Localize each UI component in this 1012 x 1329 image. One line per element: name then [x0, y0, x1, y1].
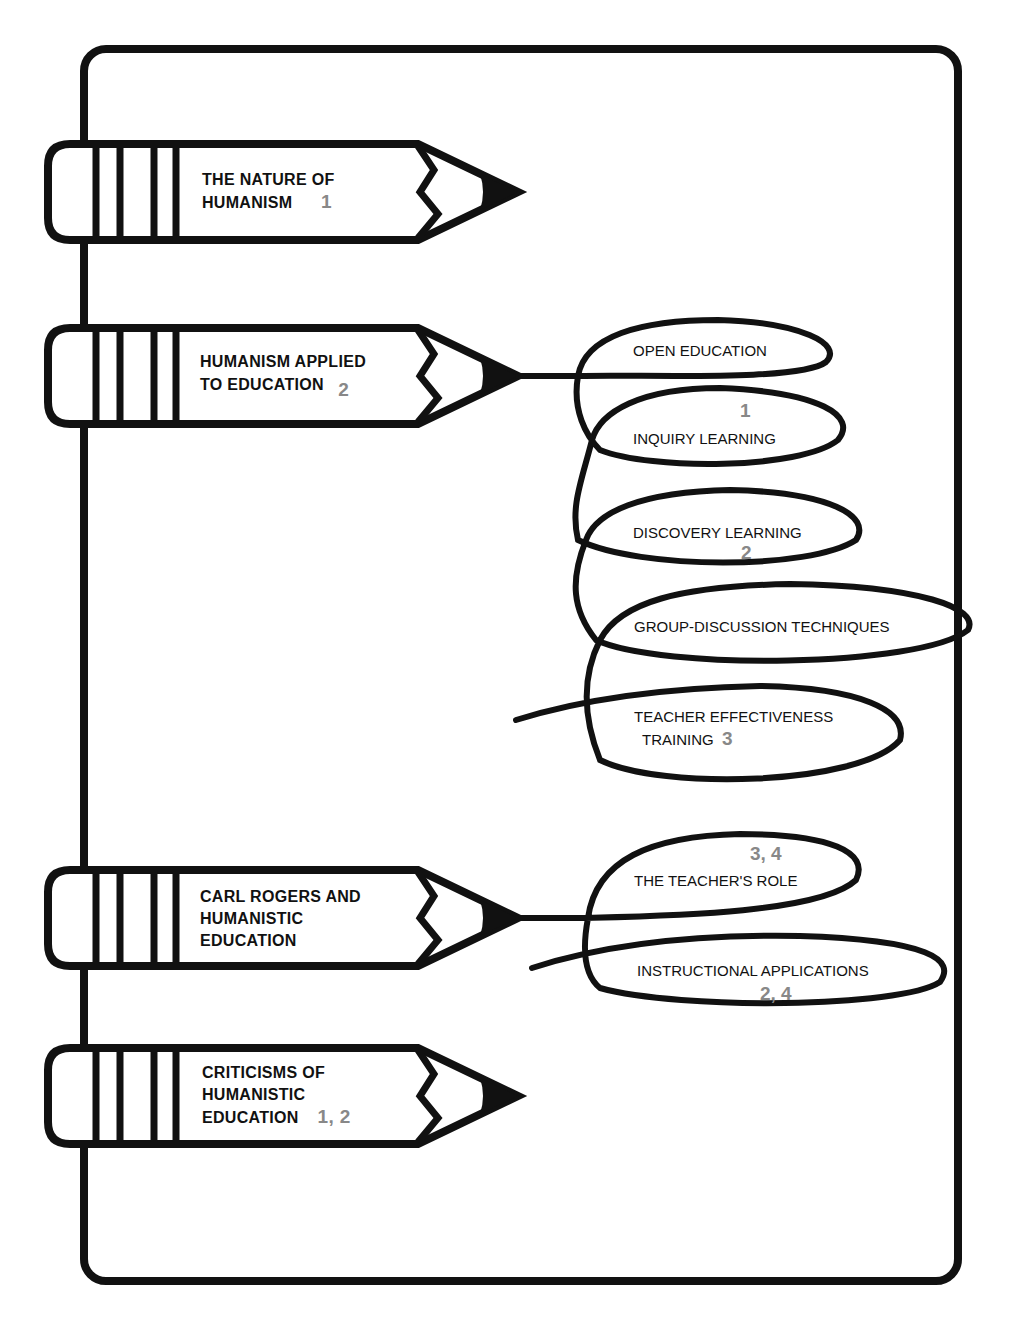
subtopic-open-education: OPEN EDUCATION: [633, 340, 767, 362]
topic-3-line-1: CARL ROGERS AND: [200, 886, 361, 908]
topic-2-line-2-text: TO EDUCATION: [200, 376, 324, 393]
topic-4-line-2: HUMANISTIC: [202, 1084, 351, 1106]
topic-4-line-1: CRITICISMS OF: [202, 1062, 351, 1084]
subtopic-instructional-chapters: 2, 4: [760, 983, 792, 1005]
subtopic-discovery-chapters: 2: [741, 542, 752, 564]
topic-4-label: CRITICISMS OF HUMANISTIC EDUCATION 1, 2: [202, 1062, 351, 1129]
subtopic-inquiry-chapters: 1: [740, 400, 751, 422]
topic-2-label: HUMANISM APPLIED TO EDUCATION 2: [200, 351, 366, 396]
subtopic-inquiry-learning: INQUIRY LEARNING: [633, 428, 776, 450]
topic-4-chapters: 1, 2: [318, 1106, 351, 1127]
subtopic-teachers-role: THE TEACHER'S ROLE: [634, 870, 797, 892]
subtopic-teacher-effectiveness-chapters: 3: [722, 728, 733, 749]
topic-4-line-3: EDUCATION 1, 2: [202, 1106, 351, 1129]
topic-3-label: CARL ROGERS AND HUMANISTIC EDUCATION: [200, 886, 361, 952]
subtopic-group-discussion: GROUP-DISCUSSION TECHNIQUES: [634, 616, 890, 638]
topic-3-line-3: EDUCATION: [200, 930, 361, 952]
topic-1-line-2-text: HUMANISM: [202, 194, 292, 211]
topic-1-line-2: HUMANISM 1: [202, 191, 335, 214]
topic-2-line-2: TO EDUCATION 2: [200, 373, 366, 396]
subtopic-teachers-role-chapters: 3, 4: [750, 843, 782, 865]
topic-1-line-1: THE NATURE OF: [202, 169, 335, 191]
subtopic-teacher-effectiveness-line-2: TRAINING 3: [634, 728, 833, 751]
topic-1-chapters: 1: [321, 191, 332, 212]
subtopic-teacher-effectiveness-line-2-text: TRAINING: [642, 731, 714, 748]
subtopic-teacher-effectiveness-line-1: TEACHER EFFECTIVENESS: [634, 706, 833, 728]
topic-2-line-1: HUMANISM APPLIED: [200, 351, 366, 373]
topic-3-line-2: HUMANISTIC: [200, 908, 361, 930]
diagram-canvas: [0, 0, 1012, 1329]
subtopic-instructional-applications: INSTRUCTIONAL APPLICATIONS: [637, 960, 869, 982]
subtopic-teacher-effectiveness: TEACHER EFFECTIVENESS TRAINING 3: [634, 706, 833, 751]
topic-1-label: THE NATURE OF HUMANISM 1: [202, 169, 335, 214]
topic-4-line-3-text: EDUCATION: [202, 1109, 299, 1126]
topic-2-chapters: 2: [338, 379, 349, 400]
subtopic-discovery-learning: DISCOVERY LEARNING: [633, 522, 802, 544]
